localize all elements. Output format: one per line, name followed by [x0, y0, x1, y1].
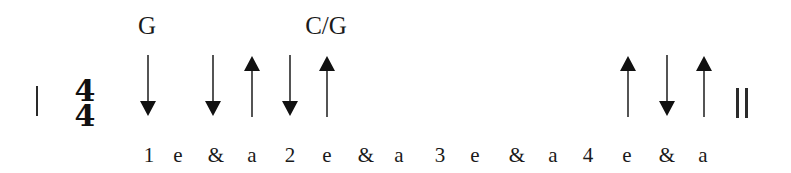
time-signature-bottom: 4	[75, 101, 96, 131]
count-label: e	[173, 145, 182, 166]
start-barline	[36, 86, 38, 116]
chord-label: G	[138, 13, 156, 38]
count-label: 3	[435, 145, 446, 166]
count-label: a	[394, 145, 403, 166]
count-label: e	[322, 145, 331, 166]
down-arrow-icon	[280, 54, 300, 118]
up-arrow-icon	[618, 54, 638, 118]
up-arrow-icon	[694, 54, 714, 118]
count-label: a	[548, 145, 557, 166]
chord-label: C/G	[305, 13, 347, 38]
count-label: 4	[583, 145, 594, 166]
count-label: e	[622, 145, 631, 166]
count-label: a	[698, 145, 707, 166]
up-arrow-icon	[242, 54, 262, 118]
count-label: &	[358, 145, 374, 166]
up-arrow-icon	[317, 54, 337, 118]
down-arrow-icon	[138, 54, 158, 118]
count-label: e	[470, 145, 479, 166]
end-barline-left	[736, 88, 739, 118]
count-label: 1	[144, 145, 155, 166]
count-label: 2	[285, 145, 296, 166]
count-label: &	[659, 145, 675, 166]
down-arrow-icon	[657, 54, 677, 118]
count-label: &	[509, 145, 525, 166]
count-label: a	[247, 145, 256, 166]
down-arrow-icon	[203, 54, 223, 118]
strumming-diagram: 4 4 G C/G 1 e & a 2 e & a 3 e & a 4 e & …	[0, 0, 791, 173]
count-label: &	[208, 145, 224, 166]
end-barline-right	[745, 88, 748, 118]
